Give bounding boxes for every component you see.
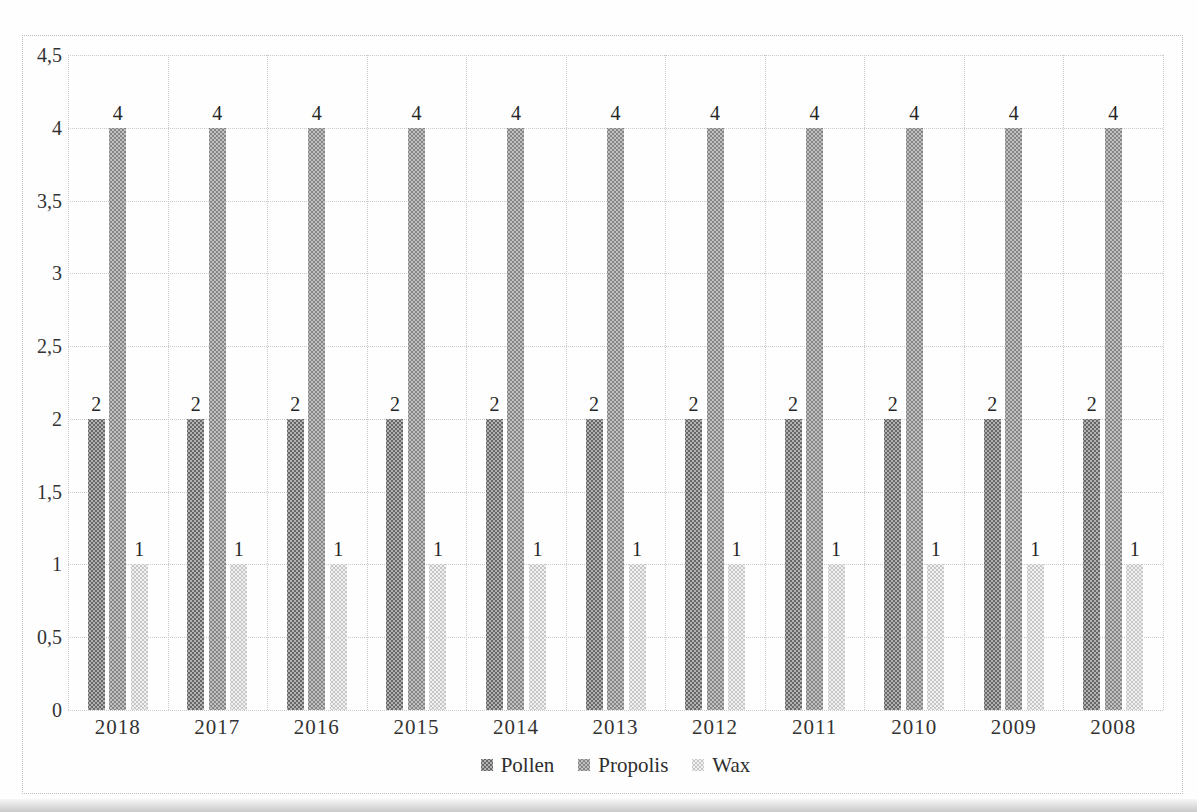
bar-value-label: 1 [821, 537, 851, 561]
x-tick-label-2018: 2018 [68, 714, 168, 740]
bar-value-label: 2 [81, 392, 111, 416]
gridline-vertical [68, 55, 69, 710]
bar-propolis-2009 [1005, 128, 1022, 710]
gridline-vertical [765, 55, 766, 710]
x-tick-label-2016: 2016 [267, 714, 367, 740]
bar-propolis-2018 [109, 128, 126, 710]
x-tick-label-2010: 2010 [864, 714, 964, 740]
bar-value-label: 1 [423, 537, 453, 561]
bar-wax-2018 [131, 564, 148, 710]
bar-pollen-2008 [1083, 419, 1100, 710]
gridline-vertical [168, 55, 169, 710]
x-tick-label-2014: 2014 [466, 714, 566, 740]
bar-value-label: 4 [302, 101, 332, 125]
gridline-horizontal [68, 710, 1163, 711]
y-tick-label: 2,5 [24, 334, 62, 358]
bar-propolis-2015 [408, 128, 425, 710]
y-tick-label: 4,5 [24, 43, 62, 67]
bar-wax-2017 [230, 564, 247, 710]
bar-value-label: 4 [999, 101, 1029, 125]
bar-value-label: 1 [224, 537, 254, 561]
legend-swatch-propolis-icon [578, 759, 590, 771]
bar-pollen-2010 [884, 419, 901, 710]
bar-propolis-2012 [707, 128, 724, 710]
bar-pollen-2013 [586, 419, 603, 710]
bar-value-label: 2 [679, 392, 709, 416]
bar-pollen-2014 [486, 419, 503, 710]
gridline-horizontal [68, 55, 1163, 56]
bar-value-label: 4 [601, 101, 631, 125]
gridline-vertical [367, 55, 368, 710]
bar-propolis-2016 [308, 128, 325, 710]
bar-propolis-2008 [1105, 128, 1122, 710]
bar-value-label: 2 [1077, 392, 1107, 416]
gridline-vertical [665, 55, 666, 710]
bar-value-label: 2 [479, 392, 509, 416]
bar-value-label: 1 [1120, 537, 1150, 561]
bar-value-label: 1 [522, 537, 552, 561]
legend-item-propolis: Propolis [578, 753, 668, 778]
y-tick-label: 2 [24, 407, 62, 431]
bar-pollen-2009 [984, 419, 1001, 710]
x-tick-label-2017: 2017 [168, 714, 268, 740]
bar-value-label: 4 [700, 101, 730, 125]
bar-wax-2010 [927, 564, 944, 710]
y-tick-label: 0,5 [24, 625, 62, 649]
bar-wax-2014 [529, 564, 546, 710]
bar-propolis-2011 [806, 128, 823, 710]
legend-item-wax: Wax [692, 753, 750, 778]
gridline-vertical [864, 55, 865, 710]
legend-label-pollen: Pollen [501, 753, 555, 778]
bar-value-label: 1 [323, 537, 353, 561]
bar-pollen-2016 [287, 419, 304, 710]
x-tick-label-2012: 2012 [665, 714, 765, 740]
scan-edge-shadow [0, 799, 1197, 812]
y-tick-label: 3,5 [24, 189, 62, 213]
bar-value-label: 4 [202, 101, 232, 125]
gridline-vertical [1163, 55, 1164, 710]
x-tick-label-2008: 2008 [1063, 714, 1163, 740]
legend-label-propolis: Propolis [598, 753, 668, 778]
bar-value-label: 1 [1020, 537, 1050, 561]
bar-propolis-2013 [607, 128, 624, 710]
bar-wax-2008 [1126, 564, 1143, 710]
gridline-vertical [964, 55, 965, 710]
gridline-vertical [466, 55, 467, 710]
x-tick-label-2015: 2015 [367, 714, 467, 740]
bar-value-label: 4 [401, 101, 431, 125]
y-tick-label: 1,5 [24, 480, 62, 504]
x-tick-label-2013: 2013 [566, 714, 666, 740]
bar-value-label: 2 [579, 392, 609, 416]
legend-item-pollen: Pollen [481, 753, 555, 778]
bar-pollen-2012 [685, 419, 702, 710]
gridline-vertical [267, 55, 268, 710]
y-tick-label: 4 [24, 116, 62, 140]
bar-value-label: 4 [501, 101, 531, 125]
bar-value-label: 2 [977, 392, 1007, 416]
bar-value-label: 2 [181, 392, 211, 416]
bar-value-label: 4 [103, 101, 133, 125]
bar-value-label: 2 [878, 392, 908, 416]
bar-wax-2016 [330, 564, 347, 710]
bar-propolis-2017 [209, 128, 226, 710]
x-tick-label-2009: 2009 [964, 714, 1064, 740]
y-tick-label: 0 [24, 698, 62, 722]
bar-value-label: 4 [1098, 101, 1128, 125]
bar-pollen-2011 [785, 419, 802, 710]
legend-swatch-pollen-icon [481, 759, 493, 771]
bar-value-label: 1 [921, 537, 951, 561]
bar-value-label: 1 [124, 537, 154, 561]
bar-pollen-2018 [88, 419, 105, 710]
x-tick-label-2011: 2011 [765, 714, 865, 740]
bar-pollen-2017 [187, 419, 204, 710]
bar-value-label: 1 [622, 537, 652, 561]
plot-area: 00,511,522,533,544,524120182412017241201… [0, 0, 1197, 812]
bar-value-label: 1 [722, 537, 752, 561]
bar-wax-2009 [1027, 564, 1044, 710]
page: { "figure": { "background": "#fefefe", "… [0, 0, 1197, 812]
bar-propolis-2014 [507, 128, 524, 710]
bar-value-label: 4 [800, 101, 830, 125]
y-tick-label: 3 [24, 261, 62, 285]
gridline-vertical [1063, 55, 1064, 710]
bar-wax-2012 [728, 564, 745, 710]
